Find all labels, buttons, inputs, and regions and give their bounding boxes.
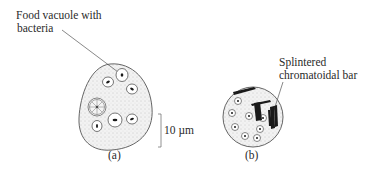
scale-bar (158, 114, 161, 147)
trophozoite-cell (62, 30, 161, 150)
nucleus (88, 98, 106, 116)
scale-bar-label: 10 µm (164, 124, 194, 137)
callout-line-a (62, 30, 118, 72)
caption-a: (a) (108, 149, 121, 162)
caption-b: (b) (245, 149, 258, 162)
diagram-canvas (0, 0, 380, 172)
callout-food-vacuole-line1: Food vacuole with (16, 9, 102, 22)
cyst-cell (223, 82, 283, 147)
callout-food-vacuole-line2: bacteria (17, 22, 53, 35)
callout-chromatoidal-line1: Splintered (279, 56, 326, 69)
callout-chromatoidal-line2: chromatoidal bar (279, 69, 357, 82)
